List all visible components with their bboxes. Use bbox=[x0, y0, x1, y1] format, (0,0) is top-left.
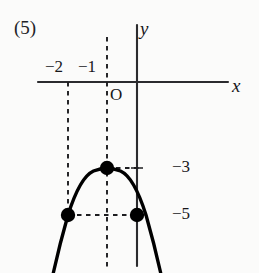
x-tick-label-minus1: −1 bbox=[78, 58, 96, 75]
x-axis-label: x bbox=[232, 76, 240, 95]
origin-label: O bbox=[110, 86, 122, 103]
figure-container: (5) y x O −2 −1 −3 −5 bbox=[0, 0, 259, 273]
point-y-intercept bbox=[130, 208, 144, 222]
point-left bbox=[61, 208, 75, 222]
problem-number: (5) bbox=[14, 18, 36, 37]
y-axis-label: y bbox=[140, 19, 148, 38]
point-vertex bbox=[100, 161, 114, 175]
y-value-label-minus5: −5 bbox=[172, 205, 190, 222]
parabola-graph bbox=[0, 0, 259, 273]
x-tick-label-minus2: −2 bbox=[45, 58, 63, 75]
y-value-label-minus3: −3 bbox=[172, 158, 190, 175]
